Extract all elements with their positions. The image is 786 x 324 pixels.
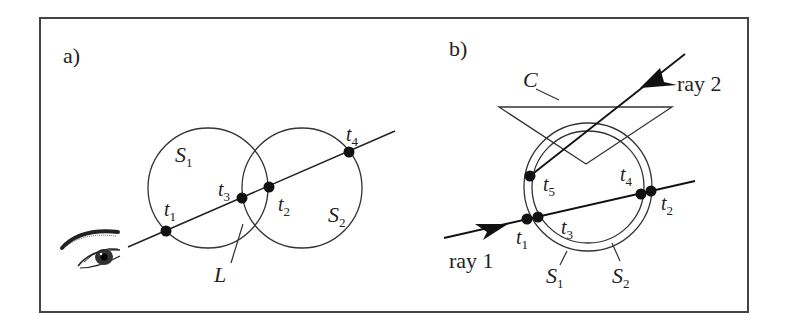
point-t2 [264, 182, 275, 193]
label-t2: t2 [278, 193, 290, 219]
label-t4: t4 [620, 163, 633, 189]
label-t5: t5 [543, 173, 555, 199]
label-t4: t4 [346, 123, 359, 149]
label-s2: S2 [612, 263, 630, 291]
panel-b: b) C ray 2 ray 1 t1 t3 t4 t2 t5 S1 S2 [444, 36, 722, 291]
label-ray-1: ray 1 [449, 248, 494, 273]
point-t1 [522, 214, 533, 225]
sphere-s2 [242, 128, 362, 248]
point-t3 [533, 212, 544, 223]
label-c: C [523, 67, 538, 92]
figure-frame [40, 18, 748, 312]
cone-c [499, 107, 672, 164]
label-l: L [213, 262, 226, 287]
label-s2: S2 [328, 202, 346, 230]
point-t1 [161, 226, 172, 237]
label-ray-2: ray 2 [677, 71, 722, 96]
l-pointer [231, 224, 243, 263]
s1-pointer [560, 251, 567, 265]
c-pointer [536, 89, 559, 100]
point-t2 [646, 186, 657, 197]
s2-pointer [612, 243, 620, 261]
panel-a-tag: a) [63, 43, 80, 68]
label-s1: S1 [175, 142, 193, 170]
ray-2-line [530, 54, 685, 176]
label-t3: t3 [561, 216, 573, 242]
panel-a: a) S1 S2 t1 t3 t2 t4 L [62, 43, 395, 287]
point-t4 [636, 189, 647, 200]
label-t1: t1 [516, 226, 528, 252]
panel-b-tag: b) [449, 36, 467, 61]
label-t3: t3 [218, 178, 230, 204]
figure: a) S1 S2 t1 t3 t2 t4 L b) [0, 0, 786, 324]
ray-2-arrow-icon [640, 68, 677, 88]
label-t1: t1 [164, 198, 176, 224]
label-s1: S1 [546, 263, 564, 291]
point-t3 [237, 193, 248, 204]
label-t2: t2 [661, 192, 673, 218]
point-t5 [525, 171, 536, 182]
ray-1-arrow-icon [475, 224, 508, 240]
eye-icon [62, 231, 120, 268]
